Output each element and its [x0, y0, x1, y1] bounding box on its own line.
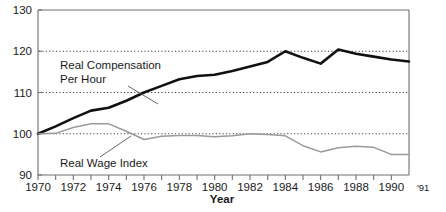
real-wage-annotation-line1: Real Wage Index: [60, 157, 148, 169]
real-compensation-annotation-line1: Real Compensation: [60, 59, 161, 71]
real-compensation-annotation-line2: Per Hour: [60, 73, 106, 85]
y-tick-label-90: 90: [19, 169, 32, 181]
x-axis-title: Year: [210, 193, 235, 205]
line-chart: 13012011010090 1970197219741976197819801…: [0, 0, 446, 212]
x-tick-label-1970: 1970: [25, 181, 51, 193]
x-tick-label-1990: 1990: [379, 181, 405, 193]
x-tick-label-1974: 1974: [96, 181, 122, 193]
y-tick-label-100: 100: [13, 128, 32, 140]
x-tick-label-1972: 1972: [61, 181, 87, 193]
x-tick-label-1991: '91: [417, 182, 429, 193]
x-tick-label-1976: 1976: [131, 181, 157, 193]
x-tick-label-1988: 1988: [343, 181, 369, 193]
x-tick-label-1978: 1978: [167, 181, 193, 193]
x-tick-label-1984: 1984: [273, 181, 299, 193]
y-tick-label-130: 130: [13, 4, 32, 16]
x-tick-marks: [38, 175, 391, 180]
x-tick-label-1980: 1980: [202, 181, 228, 193]
y-tick-label-120: 120: [13, 45, 32, 57]
y-tick-label-110: 110: [14, 87, 32, 99]
x-tick-label-1986: 1986: [308, 181, 334, 193]
chart-container: 13012011010090 1970197219741976197819801…: [0, 0, 446, 212]
x-tick-labels: 1970197219741976197819801982198419861988…: [25, 181, 429, 193]
x-tick-label-1982: 1982: [237, 181, 263, 193]
